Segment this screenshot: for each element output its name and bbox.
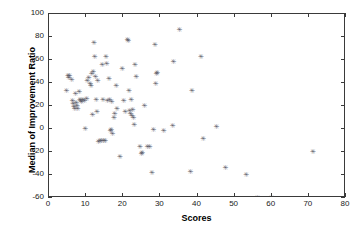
x-tick-label: 70: [293, 199, 323, 208]
data-point: ✳: [69, 78, 74, 83]
x-tick-label: 10: [70, 199, 100, 208]
y-tick: [48, 197, 52, 198]
x-tick: [345, 193, 346, 197]
data-point: ✳: [113, 84, 118, 89]
y-tick: [48, 174, 52, 175]
y-tick: [48, 128, 52, 129]
data-point: ✳: [170, 124, 175, 129]
data-point: ✳: [139, 151, 144, 156]
x-tick-label: 50: [219, 199, 249, 208]
y-tick: [341, 197, 345, 198]
data-point: ✳: [93, 98, 98, 103]
data-point: ✳: [119, 67, 124, 72]
data-point: ✳: [102, 139, 107, 144]
data-point: ✳: [254, 196, 259, 198]
data-point: ✳: [131, 123, 136, 128]
x-tick: [85, 193, 86, 197]
x-tick: [345, 13, 346, 17]
y-tick: [48, 36, 52, 37]
data-point: ✳: [176, 28, 181, 33]
data-point: ✳: [153, 82, 158, 87]
y-tick: [48, 13, 52, 14]
data-point: ✳: [152, 43, 157, 48]
y-tick: [48, 151, 52, 152]
data-point: ✳: [91, 41, 96, 46]
data-point: ✳: [222, 166, 227, 171]
data-point: ✳: [121, 99, 126, 104]
x-tick: [234, 193, 235, 197]
y-tick-label: 40: [8, 77, 44, 86]
data-point: ✳: [76, 90, 81, 95]
data-point: ✳: [161, 129, 166, 134]
data-point: ✳: [133, 75, 138, 80]
y-tick: [341, 151, 345, 152]
data-point: ✳: [75, 107, 80, 112]
x-tick-label: 30: [144, 199, 174, 208]
x-tick: [234, 13, 235, 17]
y-tick: [48, 82, 52, 83]
data-point: ✳: [132, 63, 137, 68]
data-point: ✳: [110, 132, 115, 137]
y-tick: [341, 13, 345, 14]
data-point: ✳: [84, 97, 89, 102]
data-point: ✳: [150, 128, 155, 133]
x-axis-title: Scores: [48, 213, 345, 223]
x-tick: [308, 13, 309, 17]
data-point: ✳: [188, 170, 193, 175]
data-point: ✳: [147, 145, 152, 150]
data-point: ✳: [130, 108, 135, 113]
x-tick: [271, 13, 272, 17]
y-tick-label: -20: [8, 146, 44, 155]
x-tick-label: 40: [182, 199, 212, 208]
data-point: ✳: [154, 71, 159, 76]
y-tick: [341, 174, 345, 175]
y-tick: [48, 105, 52, 106]
x-tick: [197, 13, 198, 17]
data-point: ✳: [126, 89, 131, 94]
x-tick: [197, 193, 198, 197]
y-tick: [341, 36, 345, 37]
x-tick: [159, 193, 160, 197]
x-tick: [85, 13, 86, 17]
x-tick-label: 20: [107, 199, 137, 208]
data-point: ✳: [125, 39, 130, 44]
data-point: ✳: [200, 137, 205, 142]
y-tick-label: -60: [8, 192, 44, 201]
plot-area: ✳✳✳✳✳✳✳✳✳✳✳✳✳✳✳✳✳✳✳✳✳✳✳✳✳✳✳✳✳✳✳✳✳✳✳✳✳✳✳✳…: [48, 13, 345, 197]
data-point: ✳: [214, 125, 219, 130]
y-tick: [341, 59, 345, 60]
data-point: ✳: [82, 127, 87, 132]
x-tick-label: 80: [330, 199, 357, 208]
data-point: ✳: [106, 77, 111, 82]
data-point: ✳: [117, 155, 122, 160]
y-tick-label: 0: [8, 123, 44, 132]
data-point: ✳: [64, 89, 69, 94]
x-tick-label: 60: [256, 199, 286, 208]
x-tick: [271, 193, 272, 197]
y-tick-label: 60: [8, 54, 44, 63]
y-tick: [48, 59, 52, 60]
y-tick: [341, 105, 345, 106]
y-tick: [341, 82, 345, 83]
y-tick-label: -40: [8, 169, 44, 178]
x-tick: [159, 13, 160, 17]
data-points-layer: ✳✳✳✳✳✳✳✳✳✳✳✳✳✳✳✳✳✳✳✳✳✳✳✳✳✳✳✳✳✳✳✳✳✳✳✳✳✳✳✳…: [49, 14, 344, 196]
data-point: ✳: [114, 107, 119, 112]
data-point: ✳: [95, 79, 100, 84]
data-point: ✳: [142, 104, 147, 109]
y-tick-label: 80: [8, 31, 44, 40]
data-point: ✳: [92, 55, 97, 60]
data-point: ✳: [149, 171, 154, 176]
data-point: ✳: [310, 150, 315, 155]
data-point: ✳: [94, 110, 99, 115]
x-tick: [122, 193, 123, 197]
data-point: ✳: [104, 62, 109, 67]
x-tick: [122, 13, 123, 17]
scatter-plot-figure: Median of Improvement Ratio ✳✳✳✳✳✳✳✳✳✳✳✳…: [0, 0, 357, 234]
data-point: ✳: [88, 84, 93, 89]
data-point: ✳: [198, 55, 203, 60]
data-point: ✳: [128, 98, 133, 103]
y-tick: [341, 128, 345, 129]
data-point: ✳: [189, 89, 194, 94]
data-point: ✳: [243, 173, 248, 178]
